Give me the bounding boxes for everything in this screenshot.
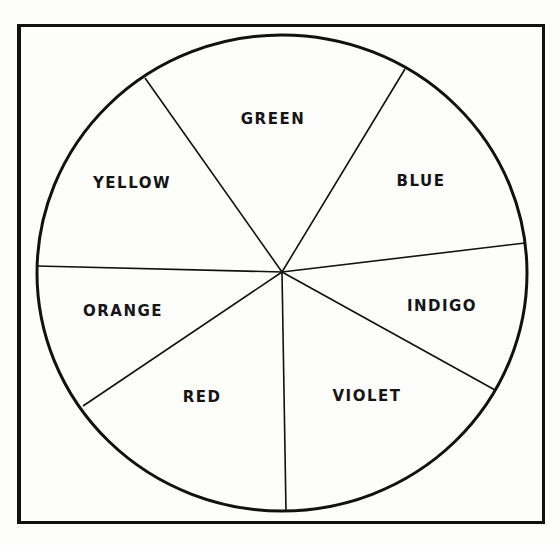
segment-divider-line (37, 266, 282, 272)
segment-divider-line (282, 272, 495, 390)
segment-label-blue: BLUE (397, 174, 446, 189)
segment-label-violet: VIOLET (333, 389, 402, 404)
color-wheel (0, 0, 559, 545)
segment-divider-line (83, 272, 282, 406)
segment-label-indigo: INDIGO (407, 299, 477, 314)
segment-divider-line (282, 272, 286, 511)
segment-label-red: RED (183, 390, 222, 405)
segment-label-green: GREEN (241, 112, 305, 127)
segment-label-yellow: YELLOW (93, 176, 171, 191)
segment-divider-line (282, 69, 405, 272)
segment-divider-line (282, 243, 525, 272)
segment-label-orange: ORANGE (83, 304, 163, 319)
